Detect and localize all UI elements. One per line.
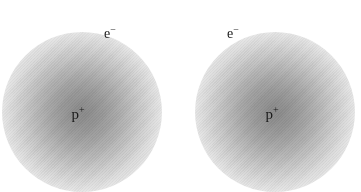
nucleus-label-left: p+ bbox=[71, 105, 84, 122]
electron-cloud-texture-right bbox=[195, 32, 355, 192]
proton-symbol-right: p bbox=[265, 106, 273, 122]
proton-symbol-left: p bbox=[71, 106, 79, 122]
proton-charge-right: + bbox=[273, 104, 279, 115]
electron-symbol-left: e bbox=[104, 26, 110, 41]
electron-cloud-texture-left bbox=[2, 32, 162, 192]
electron-cloud-right bbox=[195, 32, 355, 192]
electron-cloud-gradient-left bbox=[2, 32, 162, 192]
electron-charge-right: − bbox=[233, 24, 239, 35]
nucleus-label-right: p+ bbox=[265, 105, 278, 122]
atom-left: e− p+ bbox=[0, 0, 361, 192]
atom-right: e− p+ bbox=[0, 0, 361, 192]
proton-charge-left: + bbox=[79, 104, 85, 115]
electron-label-right: e− bbox=[227, 25, 239, 42]
atom-diagram-figure: e− p+ e− p+ bbox=[0, 0, 361, 192]
electron-cloud-gradient-right bbox=[195, 32, 355, 192]
electron-symbol-right: e bbox=[227, 26, 233, 41]
electron-cloud-left bbox=[2, 32, 162, 192]
electron-charge-left: − bbox=[110, 24, 116, 35]
electron-label-left: e− bbox=[104, 25, 116, 42]
